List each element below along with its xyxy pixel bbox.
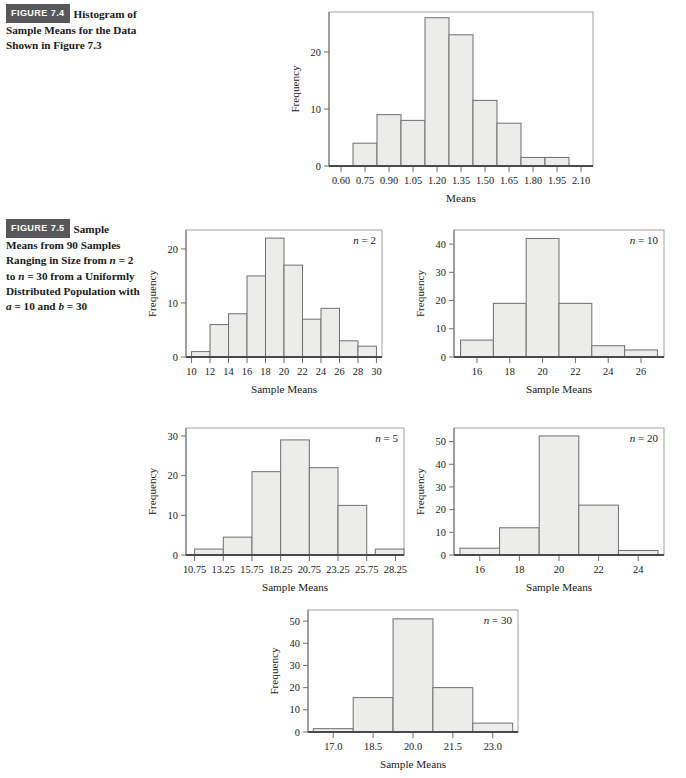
x-tick-label: 13.25 xyxy=(212,564,235,575)
histogram-bar xyxy=(521,157,545,166)
x-tick-label: 24 xyxy=(633,564,644,575)
x-axis-title: Sample Means xyxy=(380,758,446,770)
x-tick-label: 30 xyxy=(371,366,381,377)
histogram-bar xyxy=(545,157,569,166)
sample-size-annotation: n = 10 xyxy=(630,234,659,246)
x-tick-label: 18.25 xyxy=(269,564,292,575)
x-tick-label: 24 xyxy=(603,366,614,377)
histogram-bar xyxy=(449,35,473,166)
y-tick-label: 30 xyxy=(436,267,446,278)
x-tick-label: 2.10 xyxy=(572,175,590,186)
x-tick-label: 16 xyxy=(242,366,252,377)
y-tick-label: 20 xyxy=(168,244,178,255)
histogram-bar xyxy=(284,265,302,357)
bars-group xyxy=(192,238,377,357)
chart-histogram-means: 010200.600.750.901.051.201.351.501.651.8… xyxy=(283,2,601,212)
bars-group xyxy=(313,619,512,732)
x-tick-label: 18 xyxy=(505,366,515,377)
x-tick-label: 21.5 xyxy=(444,741,462,752)
x-tick-label: 12 xyxy=(205,366,215,377)
x-tick-label: 16 xyxy=(472,366,482,377)
y-tick-label: 0 xyxy=(173,550,178,561)
histogram-bar xyxy=(539,436,579,555)
chart-histogram-n30: 0102030405017.018.520.021.523.0Sample Me… xyxy=(262,600,526,778)
bars-group xyxy=(353,18,569,166)
histogram-bar xyxy=(247,276,265,357)
histogram-bar xyxy=(433,688,473,732)
x-tick-label: 22 xyxy=(570,366,580,377)
y-tick-label: 20 xyxy=(436,295,446,306)
x-tick-label: 26 xyxy=(636,366,646,377)
histogram-bar xyxy=(353,143,377,166)
histogram-bar xyxy=(377,115,401,166)
x-tick-label: 1.50 xyxy=(476,175,494,186)
x-tick-label: 20 xyxy=(537,366,547,377)
x-tick-label: 10 xyxy=(186,366,196,377)
x-tick-label: 1.05 xyxy=(404,175,422,186)
y-tick-label: 10 xyxy=(311,104,321,115)
histogram-bar xyxy=(393,619,433,732)
histogram-bar xyxy=(281,440,310,555)
histogram-bar xyxy=(401,120,425,166)
y-tick-label: 0 xyxy=(173,352,178,363)
x-tick-label: 22 xyxy=(593,564,603,575)
histogram-bar xyxy=(266,238,284,357)
figure-7-4-caption: FIGURE 7.4Histogram of Sample Means for … xyxy=(6,4,140,54)
chart-histogram-n2: 010201012141618202224262830Sample MeansF… xyxy=(140,220,390,403)
x-tick-label: 22 xyxy=(297,366,307,377)
histogram-bar xyxy=(353,698,393,732)
x-tick-label: 0.75 xyxy=(356,175,374,186)
y-axis-title: Frequency xyxy=(289,65,301,113)
y-tick-label: 20 xyxy=(436,504,446,515)
y-tick-label: 10 xyxy=(168,510,178,521)
figure-7-5-badge: FIGURE 7.5 xyxy=(6,219,70,238)
chart-histogram-n20: 010203040501618202224Sample MeansFrequen… xyxy=(408,418,672,601)
histogram-bar xyxy=(210,325,228,357)
histogram-bar xyxy=(473,723,513,732)
y-tick-label: 40 xyxy=(436,459,446,470)
histogram-bar xyxy=(493,303,526,357)
sample-size-annotation: n = 2 xyxy=(353,234,376,246)
y-tick-label: 0 xyxy=(441,352,446,363)
x-tick-label: 24 xyxy=(316,366,327,377)
y-axis-title: Frequency xyxy=(414,467,426,515)
chart-histogram-n5: 010203010.7513.2515.7518.2520.7523.2525.… xyxy=(140,418,412,601)
x-tick-label: 15.75 xyxy=(240,564,263,575)
y-tick-label: 0 xyxy=(441,550,446,561)
x-tick-label: 1.20 xyxy=(428,175,446,186)
x-tick-label: 20 xyxy=(554,564,564,575)
y-tick-label: 0 xyxy=(316,161,321,172)
histogram-bar xyxy=(302,319,320,357)
histogram-bar xyxy=(425,18,449,166)
histogram-bar xyxy=(338,505,367,555)
histogram-bar xyxy=(339,341,357,357)
sample-size-annotation: n = 5 xyxy=(375,432,398,444)
y-tick-label: 10 xyxy=(168,298,178,309)
y-axis-title: Frequency xyxy=(414,269,426,317)
x-tick-label: 18 xyxy=(260,366,270,377)
x-tick-label: 1.80 xyxy=(524,175,542,186)
y-tick-label: 10 xyxy=(436,323,446,334)
chart-histogram-n10: 010203040161820222426Sample MeansFrequen… xyxy=(408,220,672,403)
y-tick-label: 10 xyxy=(290,704,300,715)
x-axis-title: Sample Means xyxy=(251,383,317,395)
histogram-bar xyxy=(473,100,497,166)
histogram-bar xyxy=(497,123,521,166)
sample-size-annotation: n = 20 xyxy=(630,432,659,444)
y-tick-label: 10 xyxy=(436,527,446,538)
y-tick-label: 20 xyxy=(290,682,300,693)
y-tick-label: 50 xyxy=(290,616,300,627)
histogram-bar xyxy=(500,528,540,555)
histogram-bar xyxy=(358,346,376,357)
histogram-bar xyxy=(579,505,619,555)
y-tick-label: 40 xyxy=(290,638,300,649)
x-tick-label: 1.65 xyxy=(500,175,518,186)
histogram-bar xyxy=(526,238,559,357)
x-axis-title: Sample Means xyxy=(526,383,592,395)
y-tick-label: 30 xyxy=(290,660,300,671)
x-tick-label: 28.25 xyxy=(384,564,407,575)
x-tick-label: 1.35 xyxy=(452,175,470,186)
histogram-bar xyxy=(321,308,339,357)
y-tick-label: 50 xyxy=(436,436,446,447)
y-tick-label: 30 xyxy=(168,431,178,442)
